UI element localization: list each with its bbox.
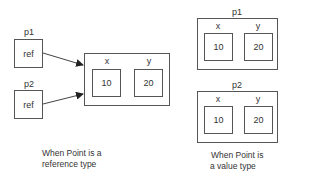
value-p2-x-label: x (203, 94, 233, 104)
value-p2-x-box: 10 (204, 106, 233, 134)
value-p1-x-box: 10 (204, 33, 233, 61)
p2-arrow-icon (43, 94, 83, 104)
value-p2-y-value: 20 (245, 115, 272, 125)
p1-arrow-icon (43, 53, 83, 65)
value-p2-y-label: y (243, 94, 273, 104)
value-p1-y-box: 20 (244, 33, 273, 61)
value-caption-line1: When Point is (211, 150, 263, 161)
value-p1-box: x 10 y 20 (197, 18, 278, 70)
value-p1-x-label: x (203, 21, 233, 31)
value-caption-line2: a value type (210, 161, 256, 172)
reference-caption-line2: reference type (42, 159, 96, 170)
value-p1-y-value: 20 (245, 42, 272, 52)
value-p1-y-label: y (243, 21, 273, 31)
value-p2-x-value: 10 (205, 115, 232, 125)
value-p2-y-box: 20 (244, 106, 273, 134)
value-p2-label: p2 (222, 80, 252, 90)
reference-caption-line1: When Point is a (42, 148, 102, 159)
value-p2-box: x 10 y 20 (197, 91, 278, 143)
value-p1-x-value: 10 (205, 42, 232, 52)
value-p1-label: p1 (222, 7, 252, 17)
